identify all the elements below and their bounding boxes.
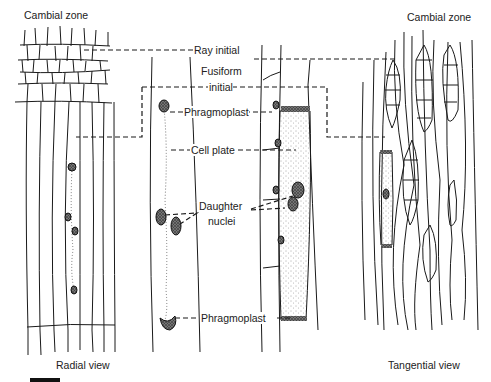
- daughter-nuclei-label-line1: Daughter: [199, 200, 242, 212]
- stippled-fusiform-cells: [260, 45, 318, 352]
- scale-bar: [30, 378, 60, 382]
- dividing-fusiform-cell: [150, 57, 200, 352]
- cambial-zone-left-label: Cambial zone: [24, 9, 88, 21]
- cambial-zone-right-label: Cambial zone: [407, 11, 471, 23]
- fusiform-initial-label-line2: initial: [209, 81, 233, 93]
- leader-lines: [76, 50, 395, 318]
- cell-plate-label: Cell plate: [191, 144, 235, 156]
- radial-view: [15, 26, 115, 355]
- ray-initial-label: Ray initial: [194, 44, 240, 56]
- radial-view-label: Radial view: [56, 359, 110, 371]
- phragmoplast-top-label: Phragmoplast: [184, 106, 249, 118]
- cambium-diagram: [0, 0, 491, 382]
- daughter-nuclei-label-line2: nuclei: [208, 215, 235, 227]
- tangential-view-label: Tangential view: [388, 359, 460, 371]
- tangential-view: [362, 30, 478, 330]
- phragmoplast-bottom-label: Phragmoplast: [201, 312, 266, 324]
- fusiform-initial-label-line1: Fusiform: [201, 65, 242, 77]
